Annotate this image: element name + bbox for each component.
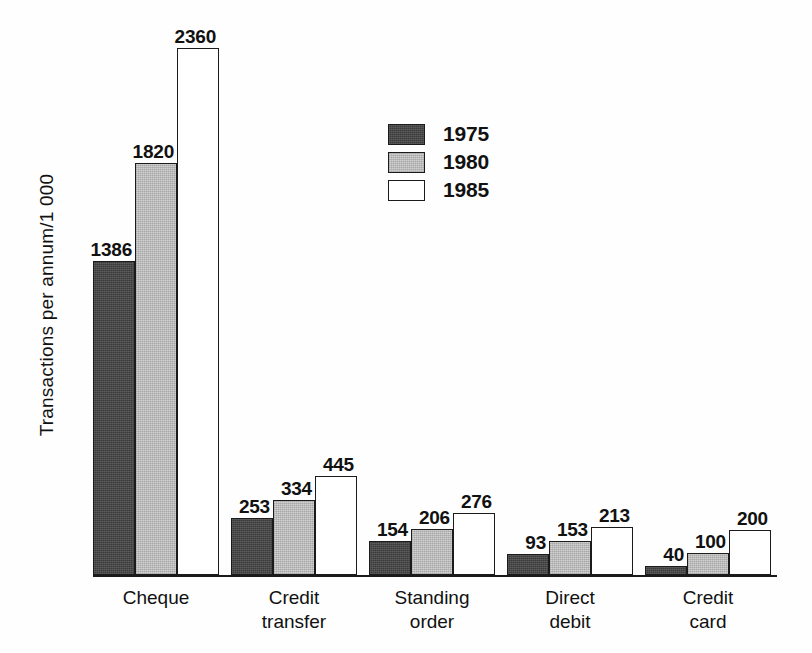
bar-1985[interactable]: 445	[315, 476, 357, 575]
bar-value-label: 40	[663, 544, 684, 566]
bar-value-label: 200	[737, 508, 768, 530]
bar-value-label: 253	[239, 496, 270, 518]
legend-label: 1980	[443, 150, 489, 174]
category-label-credit-transfer: Credit transfer	[231, 586, 357, 634]
legend-swatch-icon	[388, 124, 425, 145]
bar-1975[interactable]: 1386	[93, 261, 135, 575]
bars: 154 206 276	[369, 513, 495, 575]
bar-value-label: 1386	[91, 239, 132, 261]
legend-item-1980[interactable]: 1980	[388, 148, 489, 176]
bars: 40 100 200	[645, 530, 771, 575]
legend-label: 1975	[443, 122, 489, 146]
legend-item-1975[interactable]: 1975	[388, 120, 489, 148]
category-label-cheque: Cheque	[93, 586, 219, 610]
bar-value-label: 100	[695, 531, 726, 553]
bar-1985[interactable]: 200	[729, 530, 771, 575]
bar-1985[interactable]: 213	[591, 527, 633, 575]
legend-swatch-icon	[388, 152, 425, 173]
legend-swatch-icon	[388, 180, 425, 201]
bar-1980[interactable]: 334	[273, 500, 315, 575]
legend-item-1985[interactable]: 1985	[388, 176, 489, 204]
bars: 1386 1820 2360	[93, 48, 219, 575]
x-axis-baseline	[93, 575, 777, 577]
plot-area: 1386 1820 2360 Cheque 253 334	[0, 0, 812, 653]
chart-legend: 1975 1980 1985	[388, 120, 489, 204]
bar-value-label: 154	[377, 519, 408, 541]
bar-value-label: 445	[323, 454, 354, 476]
bar-1975[interactable]: 93	[507, 554, 549, 575]
bar-value-label: 1820	[133, 141, 174, 163]
category-label-direct-debit: Direct debit	[507, 586, 633, 634]
bar-1985[interactable]: 2360	[177, 48, 219, 575]
bar-value-label: 334	[281, 478, 312, 500]
bar-value-label: 153	[557, 519, 588, 541]
bar-value-label: 2360	[175, 26, 216, 48]
bar-value-label: 276	[461, 491, 492, 513]
bar-1975[interactable]: 40	[645, 566, 687, 575]
bar-1980[interactable]: 206	[411, 529, 453, 575]
bars: 93 153 213	[507, 527, 633, 575]
category-label-credit-card: Credit card	[645, 586, 771, 634]
bar-1980[interactable]: 1820	[135, 163, 177, 575]
bar-1975[interactable]: 253	[231, 518, 273, 575]
bar-value-label: 93	[525, 532, 546, 554]
bars: 253 334 445	[231, 476, 357, 575]
bar-value-label: 206	[419, 507, 450, 529]
bar-value-label: 213	[599, 505, 630, 527]
bar-1975[interactable]: 154	[369, 541, 411, 575]
bar-chart-figure: Transactions per annum/1 000 1386 1820 2…	[0, 0, 812, 653]
bar-1980[interactable]: 153	[549, 541, 591, 575]
bar-1985[interactable]: 276	[453, 513, 495, 575]
legend-label: 1985	[443, 178, 489, 202]
category-label-standing-order: Standing order	[369, 586, 495, 634]
bar-1980[interactable]: 100	[687, 553, 729, 575]
